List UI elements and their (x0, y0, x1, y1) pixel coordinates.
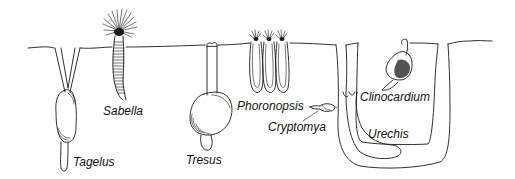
clinocardium-organism (382, 39, 412, 90)
cryptomya-label: Cryptomya (268, 120, 326, 134)
urechis-label: Urechis (368, 127, 409, 141)
sabella-organism (103, 9, 137, 100)
phoronopsis-label: Phoronopsis (237, 99, 304, 113)
sediment-surface-line (28, 41, 492, 49)
tagelus-label: Tagelus (73, 155, 115, 169)
tresus-organism (190, 43, 232, 150)
tresus-label: Tresus (186, 153, 222, 167)
sabella-label: Sabella (103, 104, 143, 118)
clinocardium-label: Clinocardium (360, 90, 430, 104)
tagelus-organism (55, 48, 80, 171)
burrowing-organisms-diagram: Tagelus Sabella Tresus Phoronopsis Crypt… (0, 0, 515, 179)
urechis-burrow (336, 43, 450, 168)
cryptomya-organism (303, 104, 337, 121)
phoronopsis-organism (250, 30, 289, 93)
